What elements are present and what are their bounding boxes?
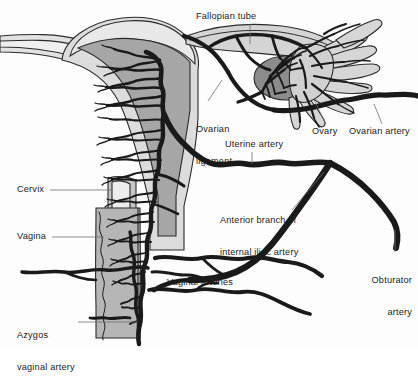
leader-ovarian-ligament <box>208 80 222 101</box>
label-obturator-line1: Obturator <box>354 275 412 286</box>
label-anterior-branch-line2: internal iliac artery <box>220 247 298 258</box>
label-vaginal-arteries: Vaginal arteries <box>167 277 233 288</box>
label-cervix: Cervix <box>17 184 44 195</box>
label-fallopian-tube: Fallopian tube <box>196 11 256 22</box>
label-obturator-line2: artery <box>354 307 412 318</box>
obturator-artery-trunk <box>330 163 397 248</box>
label-azygos-vaginal-artery: Azygos vaginal artery <box>17 309 75 376</box>
label-obturator-artery: Obturator artery <box>354 254 412 339</box>
label-anterior-branch-internal-iliac: Anterior branch of internal iliac artery <box>220 194 298 279</box>
label-azygos-line2: vaginal artery <box>17 362 75 373</box>
label-ovarian-ligament-line1: Ovarian <box>196 124 232 135</box>
azygos-artery-lower-hook <box>90 317 130 318</box>
vaginal-artery-branch-right <box>202 258 222 274</box>
vaginal-artery-mid <box>149 289 310 314</box>
label-ovarian-ligament-line2: ligament <box>196 156 232 167</box>
label-vagina: Vagina <box>17 231 46 242</box>
label-ovary: Ovary <box>312 126 337 137</box>
label-ovarian-artery: Ovarian artery <box>349 126 410 137</box>
label-anterior-branch-line1: Anterior branch of <box>220 215 298 226</box>
leader-ovarian-artery <box>374 104 382 124</box>
label-azygos-line1: Azygos <box>17 330 75 341</box>
label-uterine-artery: Uterine artery <box>225 139 283 150</box>
